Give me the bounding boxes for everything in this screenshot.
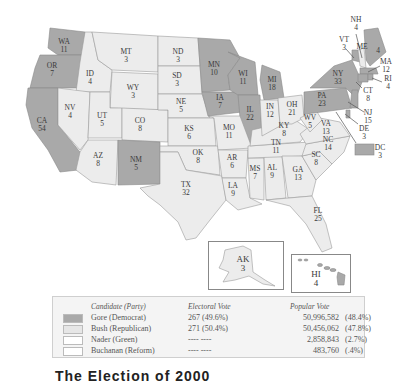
popular-vote-pct: (.4%)	[345, 346, 363, 355]
svg-text:4: 4	[376, 46, 380, 55]
header-popular: Popular Vote	[290, 302, 329, 311]
alaska-inset: AK3	[208, 241, 284, 290]
candidate-name: Gore (Democrat)	[91, 313, 146, 322]
candidate-name: Nader (Green)	[91, 335, 137, 344]
legend-row-bush: Bush (Republican) 271 (50.4%) 50,456,062…	[53, 324, 364, 335]
header-candidate: Candidate (Party)	[91, 302, 146, 311]
svg-text:VT3: VT3	[339, 35, 349, 52]
header-electoral: Electoral Vote	[188, 302, 231, 311]
svg-text:CT8: CT8	[363, 86, 373, 103]
svg-text:RI4: RI4	[384, 74, 392, 91]
electoral-vote: 267 (49.6%)	[188, 313, 228, 322]
buchanan-swatch	[63, 347, 83, 356]
svg-text:DE3: DE3	[359, 124, 369, 141]
svg-text:HI4: HI4	[311, 269, 321, 288]
electoral-vote: 271 (50.4%)	[188, 324, 228, 333]
svg-text:MI18: MI18	[267, 75, 277, 92]
svg-text:FL25: FL25	[314, 206, 323, 223]
svg-text:PA23: PA23	[318, 91, 327, 108]
popular-vote: 50,996,582	[271, 313, 339, 322]
candidate-name: Bush (Republican)	[91, 324, 151, 333]
legend-table: Candidate (Party) Electoral Vote Popular…	[52, 296, 365, 358]
hawaii-shape: HI4	[292, 255, 350, 292]
state-dc-swatch	[355, 144, 374, 155]
popular-vote-pct: (47.8%)	[345, 324, 371, 333]
nader-swatch	[63, 336, 83, 345]
electoral-vote: ---- ----	[188, 335, 211, 344]
svg-text:NJ15: NJ15	[364, 108, 372, 125]
state-co	[122, 108, 168, 142]
state-de	[346, 110, 350, 118]
svg-text:ME: ME	[356, 42, 368, 51]
svg-text:IN12: IN12	[266, 102, 274, 119]
candidate-name: Buchanan (Reform)	[91, 346, 155, 355]
legend-row-gore: Gore (Democrat) 267 (49.6%) 50,996,582 (…	[53, 313, 364, 324]
popular-vote-pct: (2.7%)	[345, 335, 367, 344]
state-ct	[358, 74, 368, 82]
popular-vote: 50,456,062	[271, 324, 339, 333]
popular-vote: 2,858,843	[271, 335, 339, 344]
svg-text:IL22: IL22	[246, 105, 254, 122]
svg-text:NC14: NC14	[323, 135, 333, 152]
svg-text:DC3: DC3	[375, 143, 385, 160]
svg-text:MA12: MA12	[380, 57, 393, 74]
electoral-vote: ---- ----	[188, 346, 211, 355]
state-or	[30, 55, 85, 88]
popular-vote: 483,760	[271, 346, 339, 355]
svg-text:NH4: NH4	[351, 15, 362, 32]
leader-de	[345, 114, 358, 124]
legend-row-nader: Nader (Green) ---- ---- 2,858,843 (2.7%)	[53, 335, 364, 346]
state-ma	[360, 68, 378, 74]
state-ri	[368, 74, 373, 80]
gore-swatch	[63, 314, 83, 323]
bush-swatch	[63, 325, 83, 334]
figure-caption: The Election of 2000	[55, 368, 210, 384]
alaska-shape: AK3	[209, 242, 283, 289]
hawaii-inset: HI4	[291, 254, 351, 293]
leader-ri	[372, 78, 382, 82]
state-pa	[304, 88, 352, 114]
popular-vote-pct: (48.4%)	[345, 313, 371, 322]
legend-row-buchanan: Buchanan (Reform) ---- ---- 483,760 (.4%…	[53, 346, 364, 357]
